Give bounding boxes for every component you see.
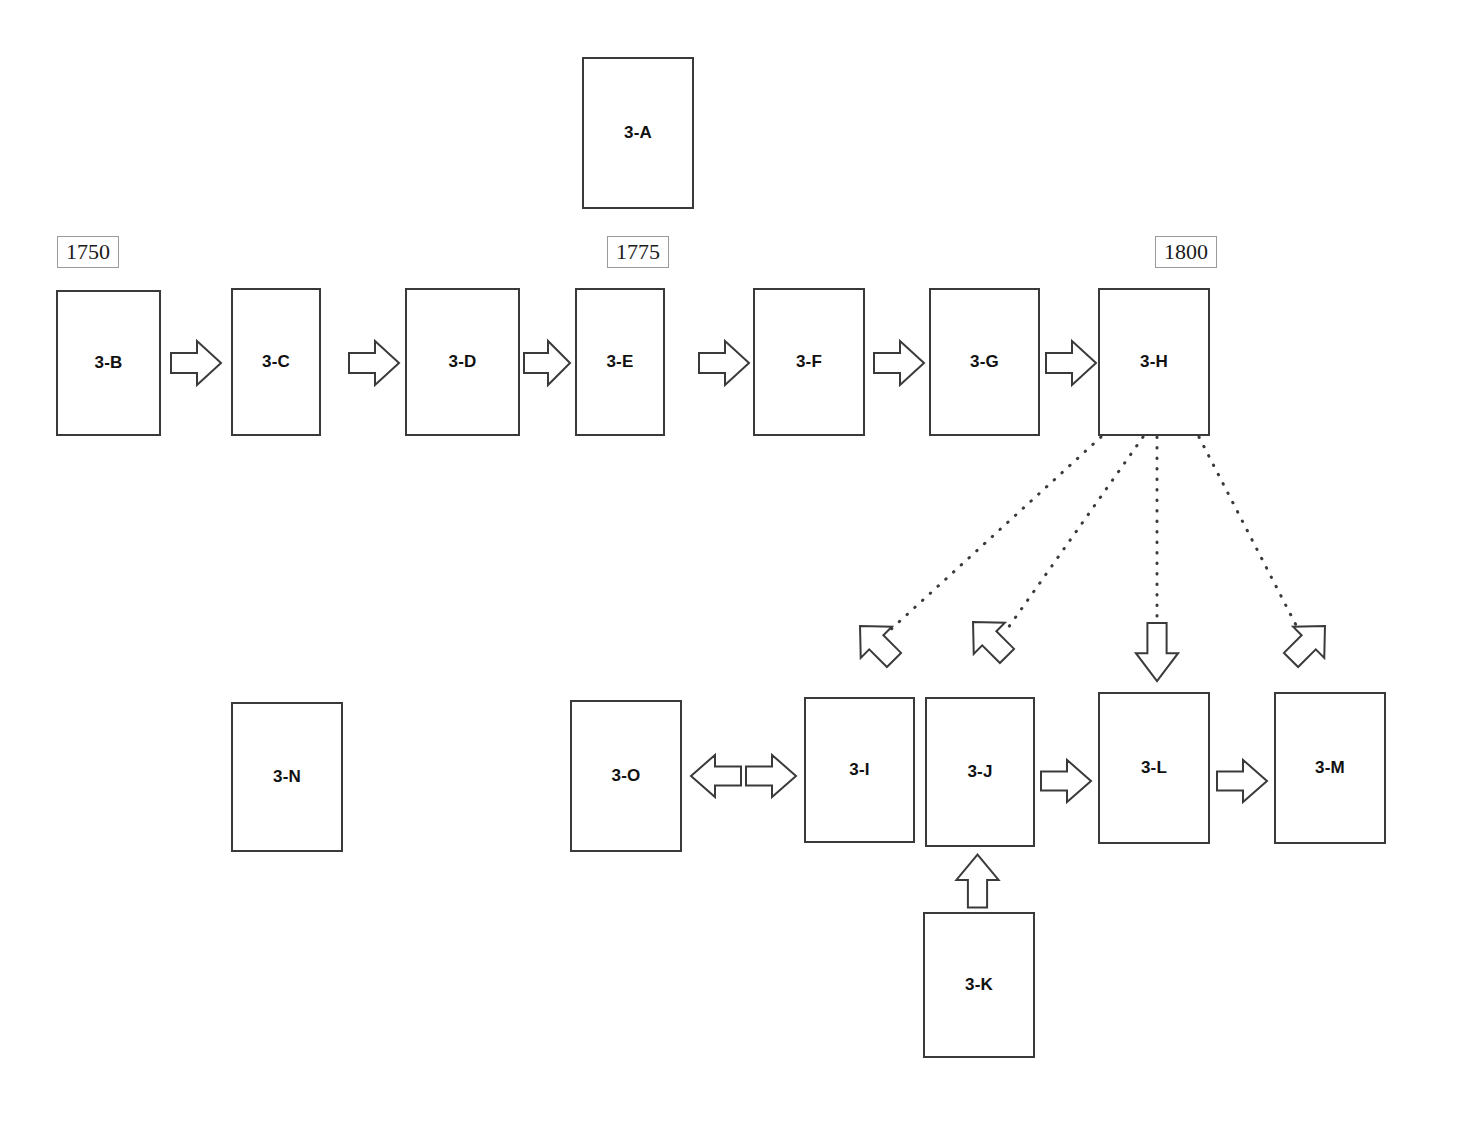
dotted-h-to-m (1199, 437, 1296, 625)
year-marker-label: 1800 (1164, 241, 1208, 263)
node-label: 3-O (612, 766, 641, 786)
node-3-F[interactable]: 3-F (753, 288, 865, 436)
arrow-d-to-e (523, 338, 571, 388)
arrow-o-to-i (745, 752, 797, 800)
node-3-D[interactable]: 3-D (405, 288, 520, 436)
year-marker-label: 1750 (66, 241, 110, 263)
dotted-h-to-i (888, 437, 1101, 632)
arrow-e-to-f (698, 338, 750, 388)
node-label: 3-A (624, 123, 652, 143)
node-3-A[interactable]: 3-A (582, 57, 694, 209)
arrow-b-to-c (170, 338, 222, 388)
node-label: 3-L (1141, 758, 1167, 778)
arrow-g-to-h (1045, 338, 1097, 388)
dotted-arrowhead-to-j (955, 604, 1026, 675)
node-3-H[interactable]: 3-H (1098, 288, 1210, 436)
dotted-h-to-j (1008, 437, 1143, 628)
dotted-connector-layer (0, 0, 1464, 1122)
node-label: 3-K (965, 975, 993, 995)
year-marker-1750: 1750 (57, 236, 119, 268)
node-3-E[interactable]: 3-E (575, 288, 665, 436)
node-label: 3-H (1140, 352, 1168, 372)
node-3-G[interactable]: 3-G (929, 288, 1040, 436)
arrow-k-to-j (953, 853, 1001, 908)
node-3-B[interactable]: 3-B (56, 290, 161, 436)
node-label: 3-J (967, 762, 992, 782)
year-marker-1775: 1775 (607, 236, 669, 268)
node-label: 3-G (970, 352, 999, 372)
node-label: 3-F (796, 352, 822, 372)
node-3-I[interactable]: 3-I (804, 697, 915, 843)
node-label: 3-I (849, 760, 869, 780)
node-label: 3-D (449, 352, 477, 372)
arrow-i-to-o (690, 752, 742, 800)
arrow-l-to-m (1216, 757, 1268, 805)
dotted-arrowhead-to-l (1133, 622, 1181, 682)
dotted-arrowhead-to-m (1273, 608, 1344, 679)
node-label: 3-C (262, 352, 290, 372)
dotted-arrowhead-to-i (842, 608, 913, 679)
arrow-j-to-l (1040, 757, 1092, 805)
node-3-L[interactable]: 3-L (1098, 692, 1210, 844)
node-3-K[interactable]: 3-K (923, 912, 1035, 1058)
node-3-M[interactable]: 3-M (1274, 692, 1386, 844)
arrow-c-to-d (348, 338, 400, 388)
node-label: 3-B (95, 353, 123, 373)
arrow-f-to-g (873, 338, 925, 388)
flowchart-canvas: 1750 1775 1800 3-A 3-B 3-C 3-D 3-E 3-F 3… (0, 0, 1464, 1122)
node-label: 3-M (1315, 758, 1345, 778)
node-label: 3-E (606, 352, 633, 372)
node-3-J[interactable]: 3-J (925, 697, 1035, 847)
node-3-C[interactable]: 3-C (231, 288, 321, 436)
node-label: 3-N (273, 767, 301, 787)
year-marker-label: 1775 (616, 241, 660, 263)
node-3-O[interactable]: 3-O (570, 700, 682, 852)
node-3-N[interactable]: 3-N (231, 702, 343, 852)
year-marker-1800: 1800 (1155, 236, 1217, 268)
